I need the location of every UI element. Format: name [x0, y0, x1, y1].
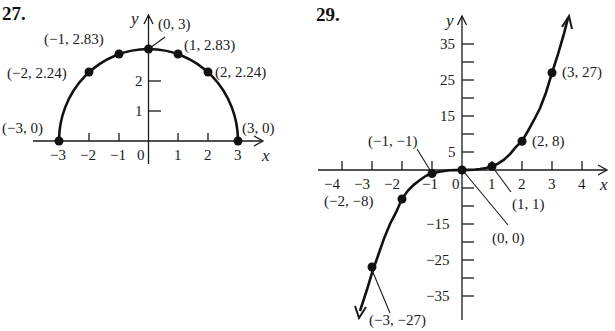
x-tick-label: 1 [174, 147, 182, 163]
point-label: (−3, 0) [2, 120, 43, 137]
data-point [204, 68, 213, 77]
y-tick-label: 5 [448, 144, 456, 160]
data-point [488, 162, 497, 171]
data-point [518, 137, 527, 146]
x-tick-label: 1 [488, 176, 496, 192]
label-leader [417, 149, 430, 170]
x-tick-label: −3 [354, 176, 370, 192]
data-point [548, 68, 557, 77]
label-leader [464, 172, 508, 225]
x-tick-label: −2 [80, 147, 96, 163]
y-axis-label: y [129, 9, 139, 28]
x-tick-label: 2 [518, 176, 526, 192]
point-label: (−3, −27) [369, 312, 426, 329]
point-label: (−2, 2.24) [7, 65, 67, 82]
y-tick-label: −35 [426, 288, 449, 304]
x-axis-label: x [599, 175, 608, 194]
point-label: (1, 2.83) [184, 37, 235, 54]
y-tick-label: −15 [426, 216, 449, 232]
data-point [398, 195, 407, 204]
data-point [85, 68, 94, 77]
y-axis-label: y [444, 11, 454, 30]
label-leader [494, 169, 511, 192]
point-label: (0, 0) [492, 230, 525, 247]
x-tick-label: −4 [324, 176, 340, 192]
data-point [174, 50, 183, 59]
data-point [144, 45, 153, 54]
y-tick-label: 35 [440, 36, 455, 52]
x-tick-label: 3 [548, 176, 556, 192]
graph-29: 29. [316, 4, 608, 329]
point-label: (−1, 2.83) [44, 31, 104, 48]
figure: 27. −3 −2 −1 0 1 2 3 x 1 2 y [0, 0, 615, 331]
x-tick-label: 4 [578, 176, 586, 192]
data-point [55, 137, 64, 146]
graph-27: 27. −3 −2 −1 0 1 2 3 x 1 2 y [2, 3, 275, 165]
x-tick-label: −3 [50, 147, 66, 163]
x-tick-label: 2 [204, 147, 212, 163]
y-ticks [149, 81, 162, 111]
graph-29-title: 29. [316, 4, 340, 25]
point-label: (3, 0) [242, 120, 275, 137]
x-axis-label: x [261, 146, 270, 165]
x-tick-label: −1 [110, 147, 126, 163]
point-label: (0, 3) [158, 16, 191, 33]
point-label: (1, 1) [512, 196, 545, 213]
label-leader [372, 270, 390, 313]
point-label: (−2, −8) [324, 193, 373, 210]
point-label: (−1, −1) [368, 133, 417, 150]
point-label: (3, 27) [562, 64, 602, 81]
y-tick-label: 1 [135, 103, 143, 119]
x-tick-label: 0 [137, 147, 145, 163]
y-tick-label: 2 [135, 73, 143, 89]
x-tick-label: 3 [234, 147, 242, 163]
y-tick-label: −25 [426, 252, 449, 268]
point-label: (2, 2.24) [215, 64, 266, 81]
x-tick-label: 0 [452, 176, 460, 192]
x-tick-label: −2 [384, 176, 400, 192]
y-tick-label: 15 [440, 108, 455, 124]
point-label: (2, 8) [532, 133, 565, 150]
graph-27-title: 27. [2, 3, 26, 24]
data-point [234, 137, 243, 146]
y-tick-label: 25 [440, 72, 455, 88]
label-leader [150, 37, 165, 48]
data-point [115, 50, 124, 59]
data-point [428, 169, 437, 178]
